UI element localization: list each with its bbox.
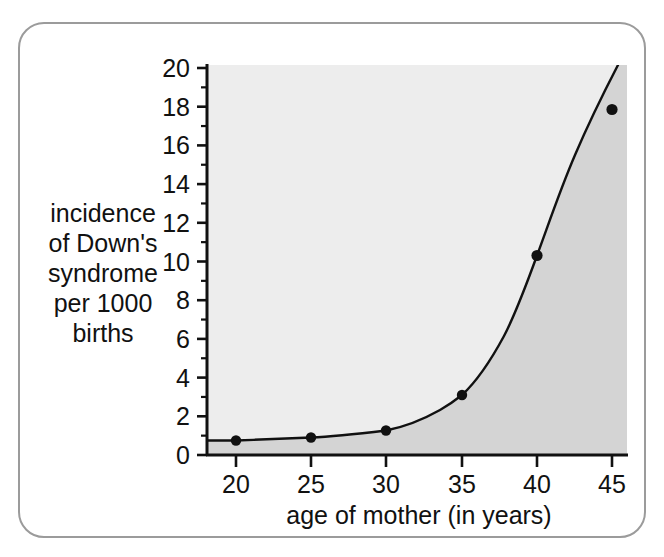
y-axis-title-line: per 1000 <box>54 289 153 317</box>
x-tick-label: 35 <box>448 470 476 498</box>
y-axis-title-line: births <box>72 319 133 347</box>
y-axis-title: incidence of Down's syndrome per 1000 bi… <box>48 199 158 347</box>
y-tick-label: 18 <box>162 93 190 121</box>
x-tick-label: 25 <box>297 470 325 498</box>
data-point <box>381 425 391 435</box>
y-axis-title-line: syndrome <box>48 259 158 287</box>
data-point <box>531 250 542 261</box>
y-axis-tick-labels: 0 2 4 6 8 10 12 14 16 18 20 <box>162 54 190 469</box>
y-tick-label: 20 <box>162 54 190 82</box>
y-tick-label: 16 <box>162 131 190 159</box>
y-tick-label: 6 <box>176 325 190 353</box>
data-point <box>457 390 467 400</box>
y-tick-label: 10 <box>162 248 190 276</box>
x-axis-tick-labels: 20 25 30 35 40 45 <box>222 470 626 498</box>
y-tick-label: 4 <box>176 364 190 392</box>
data-point <box>606 104 617 115</box>
x-axis-ticks <box>236 455 612 467</box>
y-tick-label: 8 <box>176 286 190 314</box>
y-axis-title-line: of Down's <box>49 229 158 257</box>
y-tick-label: 2 <box>176 402 190 430</box>
x-tick-label: 20 <box>222 470 250 498</box>
data-point <box>306 432 316 442</box>
x-tick-label: 45 <box>598 470 626 498</box>
y-tick-label: 14 <box>162 170 190 198</box>
data-point <box>231 435 241 445</box>
x-axis-title: age of mother (in years) <box>286 501 551 529</box>
y-axis-title-line: incidence <box>50 199 156 227</box>
y-tick-label: 0 <box>176 441 190 469</box>
y-tick-label: 12 <box>162 209 190 237</box>
x-tick-label: 40 <box>523 470 551 498</box>
x-tick-label: 30 <box>372 470 400 498</box>
downs-syndrome-incidence-chart: 0 2 4 6 8 10 12 14 16 18 20 20 25 30 35 … <box>0 0 664 557</box>
